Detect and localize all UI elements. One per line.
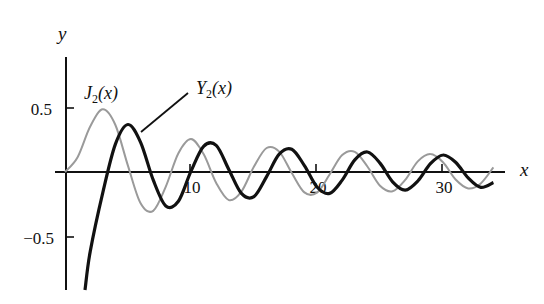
j2-label: J2(x): [84, 83, 118, 106]
chart-canvas: 0.5 −0.5 10 20 30 x y J2(x) Y2(x): [0, 0, 544, 304]
y2-curve: [85, 124, 493, 290]
y2-label: Y2(x): [196, 78, 232, 101]
y-tick-label-pos: 0.5: [31, 100, 52, 119]
y-tick-label-neg: −0.5: [23, 229, 54, 248]
y-axis-label: y: [56, 23, 67, 44]
x-tick-label-30: 30: [436, 178, 453, 197]
x-axis-label: x: [519, 159, 529, 180]
y2-label-pointer: [141, 93, 188, 132]
